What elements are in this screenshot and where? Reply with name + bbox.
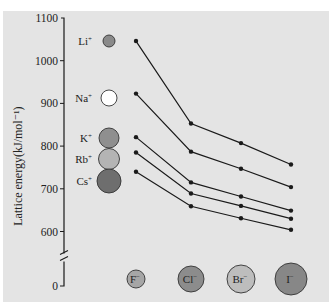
data-point bbox=[189, 204, 193, 208]
data-point bbox=[239, 216, 243, 220]
series-line-1 bbox=[136, 94, 291, 188]
data-point bbox=[289, 162, 293, 166]
series-line-4 bbox=[136, 172, 291, 230]
cation-label: Rb+ bbox=[75, 153, 92, 165]
cation-label: Na+ bbox=[75, 92, 92, 104]
y-tick-label: 1000 bbox=[35, 55, 58, 67]
series-line-0 bbox=[136, 41, 291, 164]
y-tick-label: 900 bbox=[41, 97, 59, 109]
data-point bbox=[239, 204, 243, 208]
data-point bbox=[134, 150, 138, 154]
data-point bbox=[289, 208, 293, 212]
data-point bbox=[189, 121, 193, 125]
y-tick-label: 0 bbox=[52, 280, 58, 292]
data-point bbox=[239, 167, 243, 171]
data-point bbox=[134, 39, 138, 43]
y-tick-label: 600 bbox=[41, 226, 59, 238]
y-axis-title: Lattice energy(kJ/mol⁻¹) bbox=[11, 106, 25, 225]
lattice-energy-chart: 060070080090010001100Lattice energy(kJ/m… bbox=[0, 0, 334, 308]
cation-label: K+ bbox=[80, 132, 92, 144]
data-point bbox=[189, 180, 193, 184]
data-point bbox=[134, 170, 138, 174]
data-point bbox=[239, 141, 243, 145]
data-point bbox=[134, 91, 138, 95]
data-point bbox=[189, 149, 193, 153]
data-point bbox=[239, 194, 243, 198]
data-point bbox=[289, 185, 293, 189]
data-point bbox=[289, 228, 293, 232]
y-tick-label: 1100 bbox=[35, 12, 58, 24]
data-point bbox=[134, 135, 138, 139]
cation-label: Li+ bbox=[78, 35, 92, 47]
cation-sphere-k bbox=[99, 128, 119, 148]
cation-label: Cs+ bbox=[76, 175, 92, 187]
y-tick-label: 800 bbox=[41, 140, 59, 152]
y-axis-line bbox=[61, 18, 64, 254]
cation-sphere-rb bbox=[99, 149, 120, 170]
data-point bbox=[289, 216, 293, 220]
data-point bbox=[189, 191, 193, 195]
y-axis-line-lower bbox=[60, 262, 64, 287]
cation-sphere-li bbox=[103, 35, 115, 47]
axis-break-marks bbox=[60, 251, 68, 261]
cation-sphere-na bbox=[101, 90, 117, 106]
y-tick-label: 700 bbox=[41, 183, 59, 195]
cation-sphere-cs bbox=[97, 169, 121, 193]
series-line-3 bbox=[136, 153, 291, 219]
